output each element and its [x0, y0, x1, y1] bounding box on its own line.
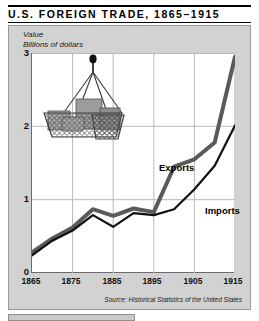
x-tick-label-1915: 1915: [216, 276, 250, 286]
y-tick-label-2: 2: [11, 121, 29, 131]
y-tick-label-1: 1: [11, 194, 29, 204]
title-rule-bottom: [8, 22, 251, 23]
series-label-exports: Exports: [159, 163, 194, 173]
x-tick-label-1865: 1865: [14, 276, 48, 286]
x-tick-label-1905: 1905: [176, 276, 210, 286]
x-tick-label-1895: 1895: [135, 276, 169, 286]
chart-plot-svg: [32, 53, 235, 273]
chart-figure: U.S. FOREIGN TRADE, 1865–1915 Value Bill…: [0, 0, 259, 321]
plot-area: [31, 53, 234, 273]
chart-card: Value Billions of dollars 3 2 1 0: [8, 25, 251, 310]
x-tick-label-1875: 1875: [54, 276, 88, 286]
y-axis-caption-line1: Value: [23, 30, 83, 40]
hook-icon: [89, 55, 96, 72]
series-label-imports: Imports: [205, 206, 240, 216]
footer-bar: [8, 314, 135, 321]
y-tick-label-3: 3: [11, 48, 29, 58]
series-line-exports: [32, 57, 235, 253]
page-title: U.S. FOREIGN TRADE, 1865–1915: [8, 8, 253, 21]
cargo-net: [44, 113, 124, 139]
title-rule-top: [8, 5, 251, 7]
y-axis-caption-line2: Billions of dollars: [23, 40, 83, 50]
series-line-imports: [32, 126, 235, 256]
cargo-sling-illustration: [44, 55, 124, 139]
y-axis-caption: Value Billions of dollars: [23, 30, 83, 50]
x-tick-label-1885: 1885: [95, 276, 129, 286]
source-note: Source: Historical Statistics of the Uni…: [104, 296, 242, 303]
